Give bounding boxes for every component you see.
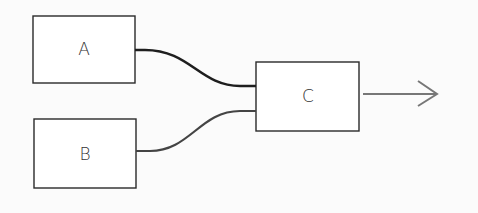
- flow-diagram: A B C: [0, 0, 478, 213]
- node-a-label: A: [78, 39, 90, 59]
- edge-b-to-c: [136, 111, 256, 151]
- node-c: C: [256, 62, 359, 131]
- node-b-label: B: [79, 144, 90, 164]
- output-arrow-icon: [363, 81, 437, 106]
- edge-a-to-c: [135, 50, 256, 86]
- node-c-label: C: [302, 86, 314, 106]
- node-a: A: [33, 16, 135, 83]
- node-b: B: [34, 119, 136, 188]
